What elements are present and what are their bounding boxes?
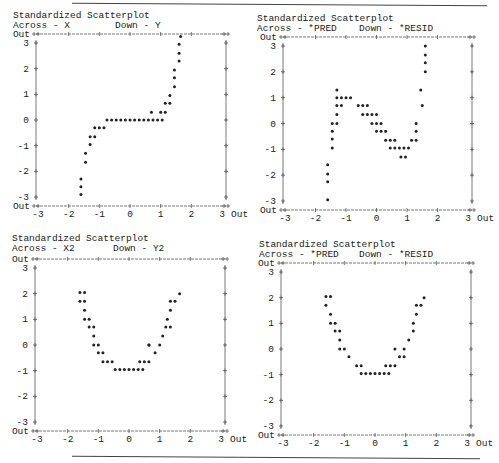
data-point-asterisk — [324, 304, 327, 307]
data-point-asterisk — [92, 326, 95, 329]
data-point-asterisk — [179, 35, 182, 38]
data-point-asterisk — [398, 355, 401, 358]
data-point-asterisk — [375, 113, 378, 116]
y-tick-label: 2 — [23, 64, 29, 75]
data-point-asterisk — [102, 126, 105, 129]
data-point-asterisk — [366, 104, 369, 107]
data-point-asterisk — [403, 355, 406, 358]
data-point-asterisk — [334, 330, 337, 333]
data-point-asterisk — [83, 318, 86, 321]
data-point-asterisk — [389, 364, 392, 367]
data-point-asterisk — [370, 113, 373, 116]
data-point-asterisk — [154, 351, 157, 354]
scatterplot-panel-2: -3-2-10123Out3210-1-2-3OutOut — [260, 32, 494, 224]
data-point-asterisk — [415, 130, 418, 133]
data-point-asterisk — [384, 364, 387, 367]
data-point-asterisk — [152, 119, 155, 122]
data-point-asterisk — [88, 318, 91, 321]
data-point-asterisk — [168, 94, 171, 97]
x-tick-label: 2 — [435, 213, 441, 224]
y-tick-label: -2 — [17, 391, 29, 402]
data-point-asterisk — [404, 156, 407, 159]
data-point-asterisk — [389, 147, 392, 150]
y-out-label-bottom: Out — [12, 426, 29, 437]
x-tick-label: 1 — [157, 434, 163, 445]
scatterplot-grid: -3-2-10123Out3210-1-2-3OutOut-3-2-10123O… — [0, 0, 499, 463]
data-point-asterisk — [114, 368, 117, 371]
data-point-asterisk — [424, 61, 427, 64]
data-point-asterisk — [331, 130, 334, 133]
data-point-asterisk — [415, 122, 418, 125]
data-point-asterisk — [369, 372, 372, 375]
data-point-asterisk — [349, 96, 352, 99]
data-point-asterisk — [360, 372, 363, 375]
y-tick-label: 2 — [270, 67, 276, 78]
x-tick-label: 1 — [404, 213, 410, 224]
data-point-asterisk — [393, 139, 396, 142]
data-point-asterisk — [97, 351, 100, 354]
data-point-asterisk — [398, 147, 401, 150]
data-point-asterisk — [326, 180, 329, 183]
data-point-asterisk — [119, 119, 122, 122]
data-point-asterisk — [173, 68, 176, 71]
data-point-asterisk — [383, 372, 386, 375]
data-point-asterisk — [161, 119, 164, 122]
data-point-asterisk — [178, 292, 181, 295]
data-point-asterisk — [83, 309, 86, 312]
data-point-asterisk — [178, 52, 181, 55]
data-point-asterisk — [142, 119, 145, 122]
x-tick-label: 3 — [218, 434, 224, 445]
data-point-asterisk — [79, 178, 82, 181]
data-point-asterisk — [83, 291, 86, 294]
x-tick-label: -2 — [62, 434, 74, 445]
data-point-asterisk — [93, 135, 96, 138]
data-point-asterisk — [324, 295, 327, 298]
data-point-asterisk — [326, 198, 329, 201]
data-point-asterisk — [331, 147, 334, 150]
y-tick-label: -1 — [265, 144, 277, 155]
data-point-asterisk — [147, 344, 150, 347]
data-point-asterisk — [92, 335, 95, 338]
data-point-asterisk — [118, 368, 121, 371]
x-tick-label: 1 — [158, 209, 164, 220]
x-tick-label: -3 — [277, 438, 289, 449]
data-point-asterisk — [375, 122, 378, 125]
data-point-asterisk — [335, 113, 338, 116]
x-out-label: Out — [230, 434, 247, 445]
scatterplot-panel-1: -3-2-10123Out3210-1-2-3OutOut — [13, 29, 248, 220]
data-point-asterisk — [360, 364, 363, 367]
y-tick-label: -2 — [18, 166, 30, 177]
x-tick-label: 2 — [188, 209, 194, 220]
y-tick-label: 1 — [22, 314, 28, 325]
data-point-asterisk — [393, 147, 396, 150]
y-tick-label: 0 — [270, 119, 276, 130]
data-point-asterisk — [106, 360, 109, 363]
data-point-asterisk — [178, 43, 181, 46]
data-point-asterisk — [84, 152, 87, 155]
data-point-asterisk — [178, 59, 181, 62]
data-point-asterisk — [343, 348, 346, 351]
y-tick-label: 1 — [23, 89, 29, 100]
data-point-asterisk — [329, 295, 332, 298]
data-point-asterisk — [335, 122, 338, 125]
data-point-asterisk — [106, 119, 109, 122]
y-tick-label: -2 — [265, 170, 277, 181]
data-point-asterisk — [421, 104, 424, 107]
y-out-label-top: Out — [260, 32, 277, 43]
data-point-asterisk — [380, 122, 383, 125]
x-tick-label: -2 — [310, 213, 322, 224]
data-point-asterisk — [334, 322, 337, 325]
data-point-asterisk — [420, 304, 423, 307]
data-point-asterisk — [92, 344, 95, 347]
data-point-asterisk — [156, 119, 159, 122]
data-point-asterisk — [364, 372, 367, 375]
data-point-asterisk — [402, 147, 405, 150]
data-point-asterisk — [378, 372, 381, 375]
x-tick-label: -1 — [340, 213, 352, 224]
y-out-label-bottom: Out — [260, 205, 277, 216]
y-tick-label: -2 — [263, 395, 275, 406]
data-point-asterisk — [115, 119, 118, 122]
data-point-asterisk — [424, 54, 427, 57]
data-point-asterisk — [97, 344, 100, 347]
data-point-asterisk — [393, 364, 396, 367]
